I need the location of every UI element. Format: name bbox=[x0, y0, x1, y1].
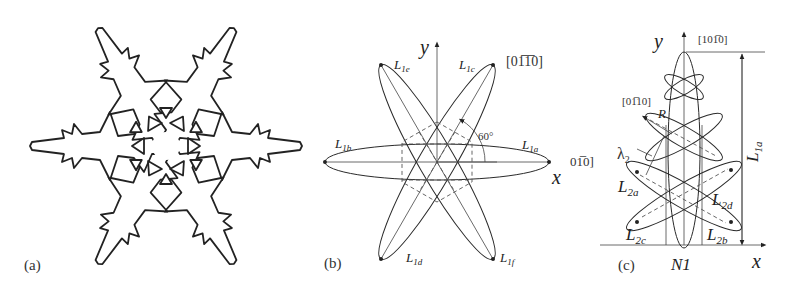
label-L2d: L2d bbox=[711, 190, 733, 211]
y-axis-label: y bbox=[418, 36, 429, 59]
height-label: L1a bbox=[743, 141, 764, 163]
label-L1e: L1e bbox=[393, 57, 410, 74]
label-L1d: L1d bbox=[405, 250, 423, 267]
caption-c: (c) bbox=[618, 257, 635, 274]
radius-label: R bbox=[657, 106, 666, 121]
y-axis-label: y bbox=[652, 30, 663, 53]
direction-top-label: [101̅0] bbox=[698, 33, 727, 45]
label-L1b: L1b bbox=[334, 136, 352, 153]
panel-a-snowflake bbox=[30, 11, 302, 281]
label-L1c: L1c bbox=[458, 57, 475, 74]
panel-c-ellipse-tree: y x [101̅0] [01̅10] R λ2 L1a N1 L2a L2b … bbox=[600, 30, 765, 274]
base-label: N1 bbox=[670, 255, 691, 274]
angle-label: 60° bbox=[478, 130, 493, 142]
lambda-label: λ2 bbox=[617, 145, 630, 165]
direction-left-label: [01̅10] bbox=[622, 95, 651, 107]
direction-right-label: 01̅0] bbox=[570, 154, 594, 169]
label-L1f: L1f bbox=[499, 250, 516, 267]
x-axis-label: x bbox=[551, 166, 561, 188]
panel-b-ellipse-star: 60° y x [01̅1̅0] 01̅0] L1a L1b L1c L1d L… bbox=[323, 36, 594, 268]
caption-a: (a) bbox=[24, 257, 41, 274]
x-axis-label: x bbox=[751, 250, 761, 272]
label-L2a: L2a bbox=[617, 177, 639, 198]
label-L1a: L1a bbox=[521, 137, 539, 154]
direction-top-label: [01̅1̅0] bbox=[506, 54, 543, 69]
caption-b: (b) bbox=[324, 255, 342, 272]
figure-canvas: (a) 60° y x [01̅1̅0] 01̅0] L1a bbox=[0, 0, 790, 287]
